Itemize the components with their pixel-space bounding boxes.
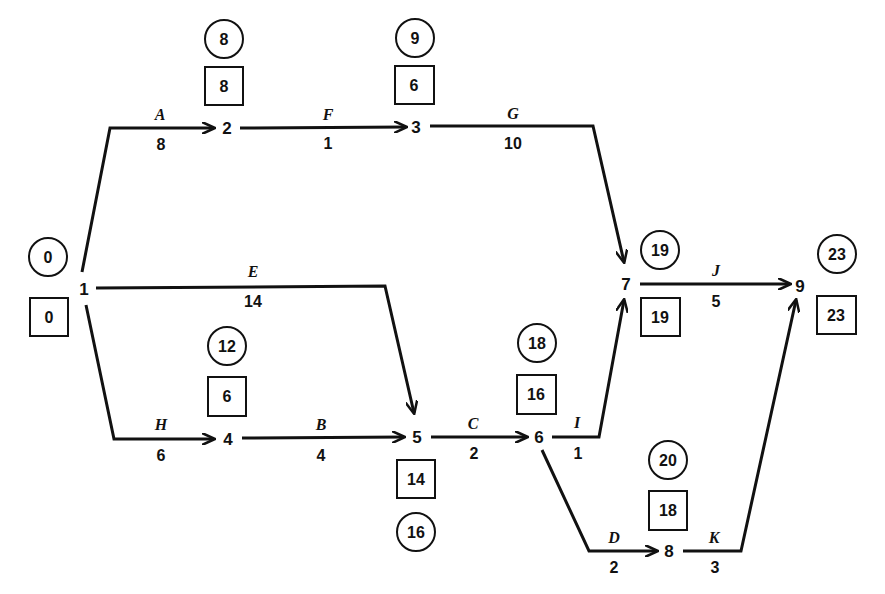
activity-label-B: B <box>315 416 327 433</box>
node-3: 3 <box>411 118 420 137</box>
svg-text:6: 6 <box>223 388 232 405</box>
duration-label-D: 2 <box>610 559 619 576</box>
activity-label-D: D <box>607 529 620 546</box>
box-marker-node-7: 19 <box>641 298 680 336</box>
svg-text:18: 18 <box>659 502 677 519</box>
edge-F <box>240 127 406 128</box>
activity-label-C: C <box>468 415 479 432</box>
box-marker-node-6: 16 <box>517 375 556 414</box>
box-marker-node-1: 0 <box>30 298 68 336</box>
circle-marker-node-4: 12 <box>208 327 246 365</box>
svg-text:6: 6 <box>410 77 419 94</box>
duration-label-F: 1 <box>324 135 333 152</box>
activity-label-G: G <box>507 105 519 122</box>
circle-marker-node-7: 19 <box>641 231 679 269</box>
svg-text:19: 19 <box>651 242 669 259</box>
duration-label-E: 14 <box>244 293 262 310</box>
cpm-network-diagram: A 8 F 1 G 10 E 14 H 6 B 4 C 2 I 1 J 5 D … <box>0 0 885 594</box>
duration-label-I: 1 <box>574 445 583 462</box>
duration-label-K: 3 <box>711 559 720 576</box>
svg-text:0: 0 <box>45 309 54 326</box>
edge-B <box>242 437 404 438</box>
svg-text:23: 23 <box>827 307 845 324</box>
activity-label-F: F <box>322 106 334 123</box>
circle-marker-node-8: 20 <box>649 441 687 479</box>
circle-marker-node-5: 16 <box>397 513 435 551</box>
circle-marker-node-2: 8 <box>205 20 243 58</box>
node-9: 9 <box>795 277 804 296</box>
activity-label-I: I <box>573 414 581 431</box>
activity-label-J: J <box>711 262 721 279</box>
box-marker-node-3: 6 <box>395 66 434 104</box>
box-marker-node-5: 14 <box>397 460 435 498</box>
activity-label-K: K <box>708 529 721 546</box>
svg-text:9: 9 <box>411 30 420 47</box>
svg-text:16: 16 <box>407 524 425 541</box>
svg-text:14: 14 <box>407 471 425 488</box>
edge-H <box>86 305 214 439</box>
svg-text:0: 0 <box>44 249 53 266</box>
box-marker-node-2: 8 <box>205 67 243 105</box>
svg-text:19: 19 <box>651 309 669 326</box>
svg-text:12: 12 <box>218 338 236 355</box>
edge-A <box>82 128 214 272</box>
node-6: 6 <box>534 428 543 447</box>
svg-text:20: 20 <box>659 452 677 469</box>
duration-label-A: 8 <box>157 136 166 153</box>
svg-text:8: 8 <box>220 78 229 95</box>
svg-text:23: 23 <box>828 246 846 263</box>
duration-label-G: 10 <box>504 135 522 152</box>
duration-label-B: 4 <box>317 447 326 464</box>
circle-marker-node-3: 9 <box>396 19 434 57</box>
duration-label-H: 6 <box>157 447 166 464</box>
svg-text:16: 16 <box>527 386 545 403</box>
node-8: 8 <box>664 542 673 561</box>
circle-marker-node-9: 23 <box>818 235 856 273</box>
edge-G <box>430 126 624 262</box>
box-marker-node-4: 6 <box>208 377 246 416</box>
node-7: 7 <box>621 275 630 294</box>
duration-label-C: 2 <box>470 445 479 462</box>
box-marker-node-9: 23 <box>817 296 856 334</box>
node-1: 1 <box>79 280 88 299</box>
circle-marker-node-1: 0 <box>29 238 67 276</box>
edge-K <box>683 300 796 551</box>
node-4: 4 <box>223 430 233 449</box>
activity-label-E: E <box>247 263 259 280</box>
edge-I <box>552 300 624 437</box>
activity-label-H: H <box>154 416 168 433</box>
box-marker-node-8: 18 <box>649 491 687 530</box>
edge-D <box>542 450 657 551</box>
svg-text:8: 8 <box>220 31 229 48</box>
duration-label-J: 5 <box>712 293 721 310</box>
node-5: 5 <box>412 428 421 447</box>
circle-marker-node-6: 18 <box>518 324 556 362</box>
node-2: 2 <box>222 119 231 138</box>
svg-text:18: 18 <box>528 335 546 352</box>
activity-label-A: A <box>154 106 166 123</box>
